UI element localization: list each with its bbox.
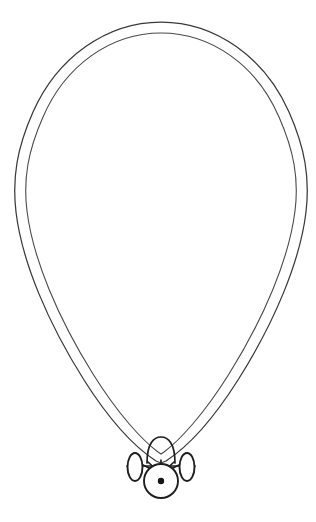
image-canvas: Necklace line drawing double-strand neck… <box>0 0 316 522</box>
center-dot-icon <box>158 478 164 484</box>
necklace-drawing <box>0 0 316 522</box>
wing-left-ellipse-icon <box>128 453 143 481</box>
wing-right-ellipse-icon <box>180 453 195 481</box>
